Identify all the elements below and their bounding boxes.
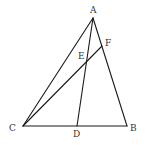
segment-AD xyxy=(77,18,93,126)
triangle-diagram: A B C D E F xyxy=(0,0,150,146)
label-E: E xyxy=(78,51,85,61)
segment-CF xyxy=(23,46,102,126)
segment-AB xyxy=(93,18,127,126)
segment-AC xyxy=(23,18,93,126)
label-A: A xyxy=(89,5,97,15)
label-F: F xyxy=(105,38,111,48)
label-D: D xyxy=(73,129,80,139)
label-B: B xyxy=(130,123,137,133)
label-C: C xyxy=(9,123,16,133)
